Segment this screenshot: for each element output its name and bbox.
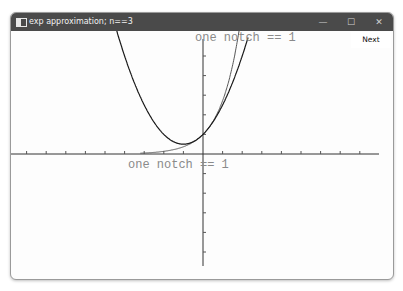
exp-curve [140, 31, 239, 153]
title-bar[interactable]: exp approximation; n==3 — ☐ ✕ [11, 13, 393, 31]
x-axis-label: one notch == 1 [128, 158, 229, 172]
x-axis [11, 151, 379, 154]
close-button[interactable]: ✕ [365, 13, 393, 31]
minimize-button[interactable]: — [309, 13, 337, 31]
app-window: exp approximation; n==3 — ☐ ✕ one notch … [10, 12, 394, 280]
y-axis [203, 39, 206, 266]
window-title: exp approximation; n==3 [29, 16, 133, 27]
plot-canvas: one notch == 1 one notch == 1 [11, 31, 393, 279]
app-icon [16, 18, 27, 27]
next-button[interactable]: Next [351, 32, 391, 48]
maximize-button[interactable]: ☐ [337, 13, 365, 31]
approximation-curve [116, 31, 249, 144]
y-axis-label: one notch == 1 [195, 31, 296, 45]
